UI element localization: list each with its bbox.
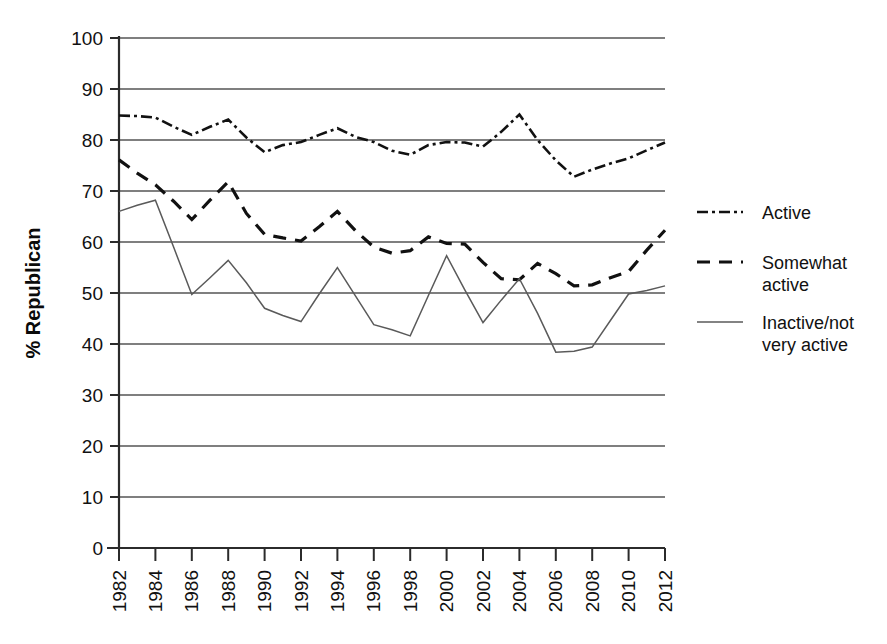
x-tick-labels-group: 1982198419861988199019921994199619982000… xyxy=(109,570,676,613)
y-tick-label: 20 xyxy=(82,436,103,457)
x-tick-label: 2000 xyxy=(436,570,457,612)
legend-group: ActiveSomewhatactiveInactive/notvery act… xyxy=(697,203,854,355)
y-axis-title: % Republican xyxy=(22,227,44,358)
x-tick-label: 1988 xyxy=(218,570,239,612)
data-series-group xyxy=(119,115,665,353)
x-tick-label: 1984 xyxy=(145,570,166,613)
x-axis-group xyxy=(107,548,665,561)
y-tick-label: 10 xyxy=(82,487,103,508)
x-tick-label: 1998 xyxy=(400,570,421,612)
series-line-inactive-not-very-active xyxy=(119,200,665,352)
y-tick-label: 100 xyxy=(71,28,103,49)
gridlines-group xyxy=(119,38,665,548)
y-tick-label: 80 xyxy=(82,130,103,151)
x-tick-label: 2004 xyxy=(509,570,530,613)
x-tick-label: 2010 xyxy=(618,570,639,612)
y-tick-label: 90 xyxy=(82,79,103,100)
y-tick-label: 50 xyxy=(82,283,103,304)
x-tick-label: 1990 xyxy=(254,570,275,612)
chart-container: 0102030405060708090100 19821984198619881… xyxy=(0,0,887,644)
y-tick-label: 60 xyxy=(82,232,103,253)
x-tick-label: 1996 xyxy=(363,570,384,612)
series-line-active xyxy=(119,115,665,177)
legend-label: Inactive/not xyxy=(762,313,854,333)
y-axis-group xyxy=(110,36,119,548)
series-line-somewhat-active xyxy=(119,160,665,286)
x-tick-label: 1994 xyxy=(327,570,348,613)
x-tick-label: 2008 xyxy=(582,570,603,612)
y-tick-label: 30 xyxy=(82,385,103,406)
y-axis-title-group: % Republican xyxy=(22,227,44,358)
x-tick-label: 2006 xyxy=(545,570,566,612)
y-tick-label: 70 xyxy=(82,181,103,202)
legend-label: Somewhat xyxy=(762,253,847,273)
x-tick-label: 2002 xyxy=(473,570,494,612)
y-tick-labels-group: 0102030405060708090100 xyxy=(71,28,103,559)
legend-label-line2: active xyxy=(762,275,809,295)
x-tick-label: 1982 xyxy=(109,570,130,612)
line-chart: 0102030405060708090100 19821984198619881… xyxy=(0,0,887,644)
y-tick-label: 40 xyxy=(82,334,103,355)
legend-label: Active xyxy=(762,203,811,223)
y-tick-label: 0 xyxy=(92,538,103,559)
x-tick-label: 2012 xyxy=(655,570,676,612)
legend-label-line2: very active xyxy=(762,335,848,355)
x-tick-label: 1986 xyxy=(181,570,202,612)
x-tick-label: 1992 xyxy=(291,570,312,612)
